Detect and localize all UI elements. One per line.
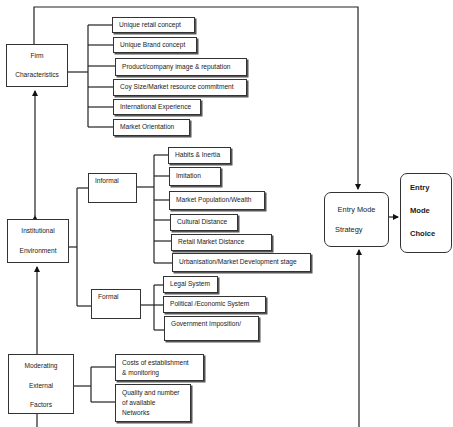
factor-label: Legal System [170, 281, 210, 288]
informal-factor-box: Urbanisation/Market Development stage [172, 253, 311, 272]
factor-label: Quality and number [122, 388, 184, 398]
node-label: Characteristics [7, 72, 67, 79]
node-label: Environment [8, 248, 68, 255]
informal-factor-box: Cultural Distance [170, 214, 238, 231]
firm-factor-box: Market Orientation [113, 119, 190, 136]
firm-characteristics-node: Firm Characteristics [6, 44, 68, 87]
node-label: Formal [98, 294, 119, 301]
firm-factor-box: Unique retail concept [112, 17, 195, 33]
formal-factor-box: Political /Economic System [163, 296, 266, 313]
factor-label: Market Population/Wealth [176, 197, 251, 204]
factor-label: of available [122, 398, 184, 408]
moderating-factor-box: Costs of establishment & monitoring [115, 354, 204, 381]
informal-factor-box: Habits & Inertia [168, 147, 231, 164]
formal-node: Formal [91, 289, 141, 319]
node-label: Moderating [9, 363, 73, 370]
node-label: External [9, 383, 73, 390]
factor-label: Unique Brand concept [120, 42, 185, 49]
node-label: Firm [7, 53, 67, 60]
factor-label: Networks [122, 408, 184, 418]
node-label: Entry [410, 184, 451, 192]
factor-label: Unique retail concept [119, 22, 181, 29]
factor-label: Political /Economic System [170, 301, 249, 308]
informal-node: Informal [88, 173, 137, 203]
informal-factor-box: Imitation [169, 167, 221, 186]
factor-label: Imitation [176, 173, 201, 180]
factor-label: Product/company image & reputation [122, 64, 231, 71]
node-label: Entry Mode [325, 206, 388, 213]
node-label: Informal [95, 178, 119, 185]
moderating-factor-box: Quality and number of available Networks [115, 384, 191, 422]
node-label: Strategy [335, 226, 388, 233]
moderating-external-factors-node: Moderating External Factors [8, 354, 74, 414]
node-label: Factors [9, 402, 73, 409]
factor-label: Retail Market Distance [178, 239, 244, 246]
entry-mode-choice-node: Entry Mode Choice [400, 173, 452, 253]
firm-factor-box: Unique Brand concept [113, 37, 197, 53]
informal-factor-box: Retail Market Distance [171, 234, 272, 251]
firm-factor-box: Product/company image & reputation [115, 58, 247, 76]
factor-label: Urbanisation/Market Development stage [179, 259, 297, 266]
institutional-environment-node: Institutional Environment [7, 219, 69, 263]
factor-label: Market Orientation [120, 124, 174, 131]
factor-label: & monitoring [122, 368, 197, 378]
node-label: Choice [410, 230, 451, 238]
informal-factor-box: Market Population/Wealth [169, 191, 265, 210]
factor-label: Coy Size/Market resource commitment [120, 84, 234, 91]
node-label: Institutional [8, 228, 68, 235]
node-label: Mode [410, 207, 451, 215]
factor-label: Cultural Distance [177, 219, 227, 226]
firm-factor-box: International Experience [113, 99, 201, 115]
formal-factor-box: Government Imposition/ [164, 316, 259, 341]
factor-label: Government Imposition/ [171, 321, 241, 328]
factor-label: Habits & Inertia [175, 152, 220, 159]
formal-factor-box: Legal System [163, 276, 218, 293]
factor-label: Costs of establishment [122, 358, 197, 368]
entry-mode-strategy-node: Entry Mode Strategy [324, 192, 389, 247]
factor-label: International Experience [120, 104, 191, 111]
firm-factor-box: Coy Size/Market resource commitment [113, 79, 247, 96]
